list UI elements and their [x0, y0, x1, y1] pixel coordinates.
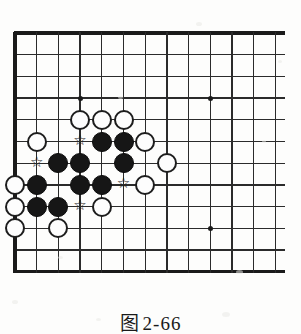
board-grid-line-horizontal [14, 54, 286, 55]
black-stone[interactable] [114, 153, 134, 173]
black-stone[interactable] [92, 132, 112, 152]
black-stone[interactable] [70, 153, 90, 173]
board-grid-line-vertical [188, 32, 189, 274]
white-stone[interactable] [5, 197, 25, 217]
black-stone[interactable] [27, 175, 47, 195]
figure-caption: 图2-66 [0, 308, 301, 334]
white-stone[interactable] [70, 110, 90, 130]
caption-label: 图 [120, 308, 140, 334]
white-stone[interactable] [135, 175, 155, 195]
white-stone[interactable] [92, 197, 112, 217]
board-grid-line-vertical [253, 32, 254, 274]
board-grid-line-horizontal [14, 97, 286, 98]
board-grid-line-vertical [231, 32, 232, 274]
board-grid-line-horizontal [14, 76, 286, 77]
scan-speckle [278, 60, 282, 63]
white-stone[interactable] [157, 153, 177, 173]
scan-speckle [222, 312, 230, 317]
black-stone[interactable] [48, 153, 68, 173]
white-stone[interactable] [27, 132, 47, 152]
scan-speckle [196, 22, 202, 26]
black-stone[interactable] [70, 175, 90, 195]
board-grid-line-horizontal [14, 119, 286, 120]
white-stone[interactable] [5, 218, 25, 238]
scan-speckle [236, 270, 243, 274]
scan-speckle [58, 256, 63, 259]
scan-speckle [118, 96, 123, 99]
white-stone[interactable] [114, 110, 134, 130]
white-stone[interactable] [48, 218, 68, 238]
scan-speckle [12, 300, 18, 304]
caption-number: 2-66 [143, 313, 182, 334]
board-edge-line-horizontal [14, 31, 286, 34]
hoshi-point [208, 96, 213, 101]
scan-speckle [96, 318, 101, 321]
board-grid-line-vertical [145, 32, 146, 274]
white-stone[interactable] [5, 175, 25, 195]
board-grid-line-horizontal [14, 249, 286, 250]
black-stone[interactable] [114, 132, 134, 152]
white-stone[interactable] [92, 110, 112, 130]
scan-speckle [262, 140, 266, 143]
board-grid-line-vertical [101, 32, 102, 274]
hoshi-point [78, 96, 83, 101]
board-grid-line-vertical [275, 32, 276, 274]
board-grid-line-vertical [36, 32, 37, 274]
white-stone[interactable] [135, 132, 155, 152]
board-grid-line-vertical [210, 32, 211, 274]
board-edge-line-horizontal [14, 270, 286, 273]
black-stone[interactable] [92, 175, 112, 195]
black-stone[interactable] [48, 197, 68, 217]
hoshi-point [208, 226, 213, 231]
figure-page: ☆☆☆☆ 图2-66 [0, 0, 301, 334]
black-stone[interactable] [27, 197, 47, 217]
go-board[interactable]: ☆☆☆☆ [0, 0, 301, 295]
